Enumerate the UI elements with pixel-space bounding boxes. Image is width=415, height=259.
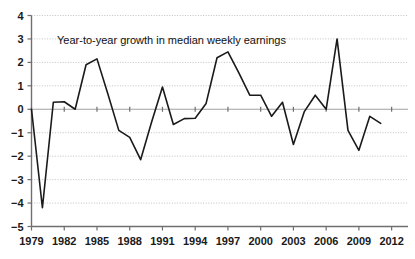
chart-container: 43210−1−2−3−4−5 197919821985198819911994…	[0, 0, 415, 259]
y-axis-tick-labels: 43210−1−2−3−4−5	[11, 10, 24, 233]
x-tick-label-1994: 1994	[183, 235, 208, 247]
x-tick-label-2009: 2009	[347, 235, 371, 247]
x-tick-label-1988: 1988	[117, 235, 141, 247]
x-axis	[32, 107, 409, 231]
x-axis-tick-labels: 1979198219851988199119941997200020032006…	[19, 235, 404, 247]
y-tick-label-1: 1	[17, 80, 23, 92]
y-tick-label-2: 2	[17, 56, 23, 68]
x-tick-label-1985: 1985	[85, 235, 109, 247]
x-tick-label-1979: 1979	[19, 235, 43, 247]
x-tick-label-2006: 2006	[314, 235, 338, 247]
y-axis	[28, 16, 32, 227]
y-tick-label-neg4: −4	[11, 197, 24, 209]
y-tick-label-neg1: −1	[11, 127, 24, 139]
y-tick-label-4: 4	[17, 10, 24, 22]
x-tick-label-1997: 1997	[216, 235, 240, 247]
x-tick-label-2012: 2012	[379, 235, 403, 247]
y-tick-label-3: 3	[17, 33, 23, 45]
y-tick-label-neg2: −2	[11, 150, 24, 162]
y-tick-label-neg3: −3	[11, 174, 24, 186]
y-tick-label-0: 0	[17, 103, 23, 115]
chart-annotation-label: Year-to-year growth in median weekly ear…	[57, 34, 286, 46]
x-tick-label-2003: 2003	[281, 235, 305, 247]
line-chart: 43210−1−2−3−4−5 197919821985198819911994…	[0, 0, 415, 259]
y-tick-label-neg5: −5	[11, 221, 24, 233]
x-tick-label-1991: 1991	[150, 235, 174, 247]
series-line-earnings-growth	[32, 39, 381, 208]
x-tick-label-2000: 2000	[248, 235, 272, 247]
x-tick-label-1982: 1982	[52, 235, 76, 247]
data-series-line	[32, 39, 381, 208]
gridlines	[32, 16, 409, 227]
